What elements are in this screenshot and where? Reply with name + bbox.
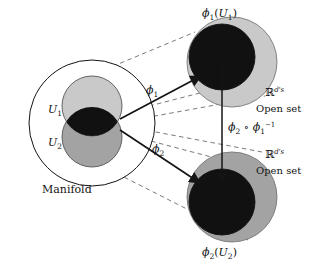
rd-label-bottom: ℝd's bbox=[265, 148, 285, 161]
diagram-canvas: U1 U2 Manifold ϕ1 ϕ2 ϕ1(U1) ϕ2(U2) ϕ2 ∘ … bbox=[0, 0, 321, 263]
open-set-label-top: Open set bbox=[256, 103, 301, 114]
phi1-label: ϕ1 bbox=[146, 84, 158, 99]
chart2-image-label: ϕ2(U2) bbox=[202, 246, 237, 261]
transition-map-label: ϕ2 ∘ ϕ1−1 bbox=[228, 121, 275, 136]
rd-label-top: ℝd's bbox=[265, 86, 285, 99]
phi2-label: ϕ2 bbox=[152, 143, 165, 158]
manifold-label: Manifold bbox=[42, 183, 92, 196]
manifold-chart-diagram: U1 U2 Manifold ϕ1 ϕ2 ϕ1(U1) ϕ2(U2) ϕ2 ∘ … bbox=[0, 0, 321, 263]
chart1-image-label: ϕ1(U1) bbox=[202, 7, 237, 22]
open-set-label-bottom: Open set bbox=[256, 165, 301, 176]
